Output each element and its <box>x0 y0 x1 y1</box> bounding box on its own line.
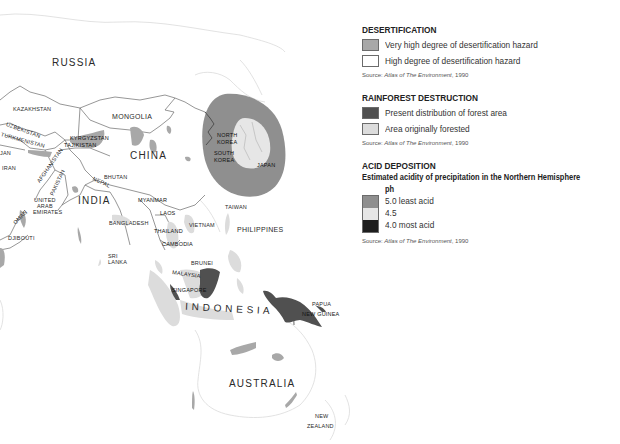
label-japan: JAPAN <box>257 163 275 169</box>
legend-label: Area originally forested <box>385 124 470 134</box>
legend-desertification: DESERTIFICATION Very high degree of dese… <box>362 26 620 35</box>
label-papua-2: NEW GUINEA <box>302 312 339 318</box>
acid-ph-scale <box>362 195 379 233</box>
legend-acid-subtitle: Estimated acidity of precipitation in th… <box>362 173 580 182</box>
legend-label: Present distribution of forest area <box>385 108 507 118</box>
legend-rainforest-title: RAINFOREST DESTRUCTION <box>362 94 599 103</box>
legend-item-forest-present: Present distribution of forest area <box>362 106 518 119</box>
label-taiwan: TAIWAN <box>225 205 247 211</box>
legend-source: Source: Atlas of The Environment, 1990 <box>362 140 468 146</box>
swatch-ph-4-0 <box>363 220 378 232</box>
label-vietnam: VIETNAM <box>189 223 215 229</box>
label-india: INDIA <box>78 196 111 206</box>
label-nz-2: ZEALAND <box>307 424 334 430</box>
label-cambodia: CAMBODIA <box>162 242 193 248</box>
label-kyrgyzstan: KYRGYZSTAN <box>70 136 109 142</box>
label-bangladesh: BANGLADESH <box>109 221 149 227</box>
label-north-korea-1: NORTH <box>217 133 237 139</box>
label-philippines: PHILIPPINES <box>237 226 283 233</box>
label-south-korea-1: SOUTH <box>214 151 234 157</box>
label-mongolia: MONGOLIA <box>112 113 152 120</box>
legend-acid-title: ACID DEPOSITION <box>362 162 599 171</box>
label-nz-1: NEW <box>315 414 328 420</box>
label-papua-1: PAPUA <box>312 302 331 308</box>
label-north-korea-2: KOREA <box>217 140 237 146</box>
swatch-ph-5-0 <box>363 196 378 208</box>
legend-item-very-high-desertification: Very high degree of desertification haza… <box>362 38 551 51</box>
legend-source: Source: Atlas of The Environment, 1990 <box>362 238 468 244</box>
label-uae-3: EMIRATES <box>33 210 62 216</box>
acid-deposition-zone <box>202 94 285 197</box>
legend-ph-4-0-label: 4.0 most acid <box>385 220 434 230</box>
label-myanmar: MYANMAR <box>138 198 167 204</box>
legend-source: Source: Atlas of The Environment, 1990 <box>362 72 468 78</box>
legend-desertification-title: DESERTIFICATION <box>362 26 599 35</box>
legend-acid-unit: ph <box>385 185 394 194</box>
legend-item-forest-original: Area originally forested <box>362 122 477 135</box>
label-laos: LAOS <box>160 211 175 217</box>
label-singapore: SINGAPORE <box>172 288 207 294</box>
legend-label: Very high degree of desertification haza… <box>385 40 538 50</box>
legend-ph-5-0-label: 5.0 least acid <box>385 196 434 206</box>
label-bhutan: BHUTAN <box>104 175 127 181</box>
label-australia: AUSTRALIA <box>229 379 295 389</box>
label-china: CHINA <box>130 151 167 161</box>
swatch-ph-4-5 <box>363 208 378 220</box>
legend-ph-4-5-label: 4.5 <box>385 208 397 218</box>
swatch-very-high-desertification <box>362 39 379 51</box>
label-brunei: BRUNEI <box>191 261 213 267</box>
swatch-high-desertification <box>362 55 379 67</box>
label-sri-lanka-2: LANKA <box>108 260 127 266</box>
label-azerbaijan: JAN <box>0 151 11 157</box>
label-tajikistan: TAJIKISTAN <box>64 143 96 149</box>
swatch-forest-present <box>362 107 379 119</box>
legend-acid-deposition: ACID DEPOSITION Estimated acidity of pre… <box>362 162 620 171</box>
legend-item-high-desertification: High degree of desertification hazard <box>362 54 532 67</box>
label-thailand: THAILAND <box>154 229 183 235</box>
label-russia: RUSSIA <box>52 58 96 68</box>
label-south-korea-2: KOREA <box>214 158 234 164</box>
label-djibouti: DJIBOUTI <box>8 236 35 242</box>
legend-label: High degree of desertification hazard <box>385 56 520 66</box>
swatch-forest-original <box>362 123 379 135</box>
label-kazakhstan: KAZAKHSTAN <box>13 107 51 113</box>
legend-rainforest: RAINFOREST DESTRUCTION Present distribut… <box>362 94 620 103</box>
label-iran: IRAN <box>2 166 16 172</box>
